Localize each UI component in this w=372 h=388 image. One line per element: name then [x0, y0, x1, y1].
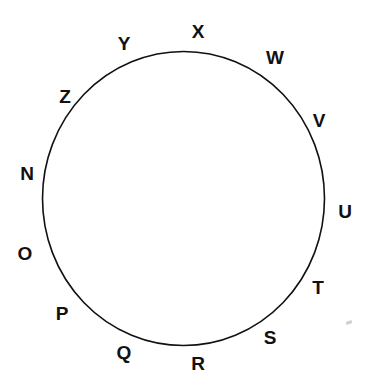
- circle-label-o: O: [18, 244, 33, 263]
- circle-label-w: W: [266, 48, 284, 67]
- circle-label-s: S: [264, 328, 277, 347]
- letter-circle-diagram: XWVUTSRQPONZY: [0, 0, 372, 388]
- circle-label-z: Z: [59, 87, 71, 106]
- circle-label-x: X: [192, 22, 205, 41]
- circle-label-y: Y: [118, 34, 131, 53]
- circle-label-r: R: [191, 354, 205, 373]
- circle-outline: [0, 0, 372, 388]
- circle-label-q: Q: [117, 343, 132, 362]
- circle-label-n: N: [20, 164, 34, 183]
- circle-label-t: T: [312, 278, 324, 297]
- circle-label-u: U: [338, 202, 352, 221]
- circle-label-v: V: [313, 111, 326, 130]
- circle-label-p: P: [56, 304, 69, 323]
